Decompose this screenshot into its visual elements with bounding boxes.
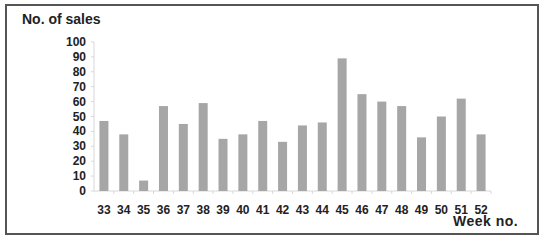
x-tick-label: 46: [355, 203, 369, 217]
bar-week-51: [457, 99, 466, 191]
bar-week-50: [437, 117, 446, 192]
bar-week-34: [119, 134, 128, 191]
bar-week-38: [199, 103, 208, 191]
bar-week-42: [278, 142, 287, 191]
y-tick-label: 90: [73, 50, 87, 64]
y-tick-label: 70: [73, 80, 87, 94]
x-tick-label: 37: [177, 203, 191, 217]
y-ticks: 0102030405060708090100: [66, 35, 94, 198]
bar-week-39: [219, 139, 228, 191]
y-tick-label: 50: [73, 110, 87, 124]
y-tick-label: 0: [79, 184, 86, 198]
bar-week-36: [159, 106, 168, 191]
y-axis-title: No. of sales: [22, 11, 101, 27]
x-tick-label: 48: [395, 203, 409, 217]
x-tick-label: 41: [256, 203, 270, 217]
bar-week-40: [238, 134, 247, 191]
y-tick-label: 40: [73, 124, 87, 138]
x-tick-label: 34: [117, 203, 131, 217]
bar-week-45: [338, 58, 347, 191]
y-tick-label: 30: [73, 139, 87, 153]
x-tick-label: 38: [196, 203, 210, 217]
x-tick-label: 47: [375, 203, 389, 217]
bar-week-33: [99, 121, 108, 191]
x-tick-label: 51: [455, 203, 469, 217]
bar-week-35: [139, 181, 148, 191]
x-tick-label: 42: [276, 203, 290, 217]
y-tick-label: 100: [66, 35, 86, 49]
bar-week-47: [377, 102, 386, 191]
x-tick-label: 40: [236, 203, 250, 217]
x-tick-label: 44: [316, 203, 330, 217]
x-tick-label: 39: [216, 203, 230, 217]
bar-week-46: [357, 94, 366, 191]
x-tick-label: 45: [335, 203, 349, 217]
y-tick-label: 10: [73, 169, 87, 183]
bar-week-48: [397, 106, 406, 191]
bar-week-49: [417, 137, 426, 191]
x-tick-label: 43: [296, 203, 310, 217]
y-tick-label: 60: [73, 95, 87, 109]
y-tick-label: 80: [73, 65, 87, 79]
bar-week-43: [298, 125, 307, 191]
x-tick-label: 52: [474, 203, 488, 217]
bar-week-37: [179, 124, 188, 191]
x-tick-label: 36: [157, 203, 171, 217]
x-tick-label: 50: [435, 203, 449, 217]
y-tick-label: 20: [73, 154, 87, 168]
bar-week-44: [318, 122, 327, 191]
x-tick-label: 33: [97, 203, 111, 217]
x-tick-label: 49: [415, 203, 429, 217]
bars: [99, 58, 485, 191]
axes: [94, 42, 491, 191]
bar-chart: No. of sales Week no. 010203040506070809…: [0, 0, 544, 243]
x-ticks: 3334353637383940414243444546474849505152: [97, 191, 491, 217]
x-tick-label: 35: [137, 203, 151, 217]
bar-week-52: [477, 134, 486, 191]
bar-week-41: [258, 121, 267, 191]
